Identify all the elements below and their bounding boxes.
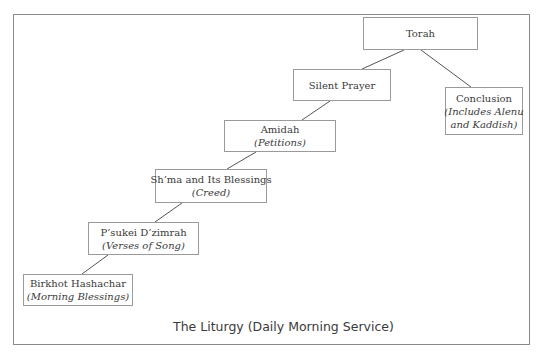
node-silent-prayer: Silent Prayer [293,69,391,101]
node-title: Silent Prayer [309,79,376,92]
node-title: Birkhot Hashachar [30,277,126,290]
node-birkhot: Birkhot Hashachar (Morning Blessings) [23,274,133,306]
node-title: Amidah [261,123,300,136]
node-title: P’sukei D’zimrah [100,226,186,239]
node-conclusion: Conclusion (Includes Alenu and Kaddish) [445,87,523,135]
node-subtitle: (Petitions) [254,136,306,149]
node-shma: Sh’ma and Its Blessings (Creed) [155,169,267,203]
node-amidah: Amidah (Petitions) [224,120,336,152]
node-subtitle: and Kaddish) [451,118,518,131]
node-title: Conclusion [456,92,512,105]
node-subtitle: (Morning Blessings) [27,290,129,303]
node-title: Sh’ma and Its Blessings [150,173,271,186]
node-subtitle: (Creed) [192,186,230,199]
node-torah: Torah [363,17,478,50]
node-psukei: P’sukei D’zimrah (Verses of Song) [88,222,199,255]
node-subtitle: (Verses of Song) [102,239,185,252]
node-subtitle: (Includes Alenu [444,105,523,118]
diagram-caption: The Liturgy (Daily Morning Service) [173,319,373,334]
node-title: Torah [406,27,435,40]
